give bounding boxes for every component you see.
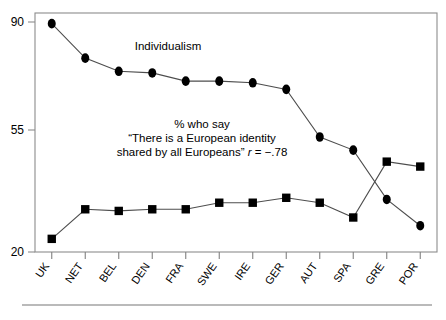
x-axis-ticks xyxy=(52,252,421,259)
data-point-ire xyxy=(249,199,257,207)
series-european-identity xyxy=(48,157,425,243)
identity-annotation-line-2: “There is a European identity xyxy=(128,132,276,144)
correlation-value: = −.78 xyxy=(252,146,288,158)
y-tick-label-90: 90 xyxy=(11,15,25,29)
y-axis-ticks xyxy=(28,22,35,252)
x-axis-label-bel: BEL xyxy=(97,260,119,284)
data-point-ire xyxy=(249,78,257,88)
data-point-fra xyxy=(182,205,190,213)
data-point-gre xyxy=(383,157,391,165)
data-point-bel xyxy=(115,66,123,76)
data-point-aut xyxy=(316,132,324,142)
series-line-1 xyxy=(52,162,421,239)
chart-canvas: 90 55 20 UKNETBELDENFRASWEIREGERAUTSPAGR… xyxy=(0,0,446,320)
data-point-den xyxy=(148,68,156,78)
data-point-uk xyxy=(48,19,56,29)
y-tick-label-55: 55 xyxy=(11,123,25,137)
data-point-spa xyxy=(349,213,357,221)
data-point-por xyxy=(416,162,424,170)
x-axis-label-por: POR xyxy=(396,260,420,286)
identity-annotation-line-1: % who say xyxy=(174,118,230,130)
data-point-bel xyxy=(115,207,123,215)
data-point-uk xyxy=(48,235,56,243)
series-line-0 xyxy=(52,24,421,226)
data-point-net xyxy=(81,53,89,63)
data-point-den xyxy=(148,205,156,213)
x-axis-label-den: DEN xyxy=(129,260,152,286)
data-point-por xyxy=(416,221,424,231)
data-point-swe xyxy=(215,199,223,207)
x-axis-label-uk: UK xyxy=(33,260,52,280)
x-axis-label-spa: SPA xyxy=(331,260,353,285)
data-point-gre xyxy=(383,195,391,205)
identity-annotation-line-3: shared by all Europeans” r = −.78 xyxy=(117,146,288,158)
individualism-label: Individualism xyxy=(135,40,201,52)
data-point-net xyxy=(81,205,89,213)
data-point-swe xyxy=(215,76,223,86)
series-individualism xyxy=(48,19,425,231)
data-point-aut xyxy=(316,199,324,207)
data-point-ger xyxy=(282,85,290,95)
x-axis-label-fra: FRA xyxy=(163,260,186,285)
y-tick-label-20: 20 xyxy=(11,245,25,259)
x-axis-label-net: NET xyxy=(62,260,85,285)
x-axis-label-aut: AUT xyxy=(297,260,320,285)
x-axis-label-ire: IRE xyxy=(232,260,252,282)
data-point-ger xyxy=(282,194,290,202)
x-axis-label-swe: SWE xyxy=(195,260,219,287)
identity-annotation-text: shared by all Europeans” xyxy=(117,146,248,158)
figure-container: 90 55 20 UKNETBELDENFRASWEIREGERAUTSPAGR… xyxy=(0,0,446,320)
data-point-spa xyxy=(349,145,357,155)
x-axis-label-ger: GER xyxy=(262,260,286,286)
x-axis-labels: UKNETBELDENFRASWEIREGERAUTSPAGREPOR xyxy=(33,260,420,288)
data-point-fra xyxy=(182,76,190,86)
x-axis-label-gre: GRE xyxy=(363,260,387,286)
